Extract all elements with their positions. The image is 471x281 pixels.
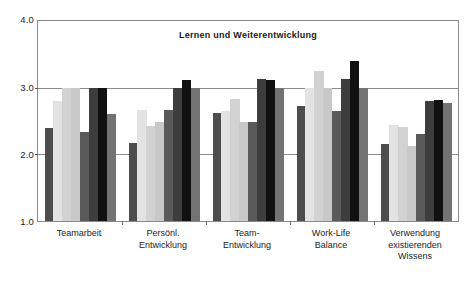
bar-group (45, 21, 116, 221)
x-tickmark (290, 221, 291, 225)
bar-chart: 4.0 3.0 2.0 1.0 Lernen und Weiterentwick… (0, 0, 471, 281)
x-axis-label-line: Entwicklung (121, 240, 205, 252)
bar (332, 111, 341, 221)
bar (305, 88, 314, 221)
bar (275, 88, 284, 221)
x-axis-label: Persönl.Entwicklung (121, 228, 205, 251)
bar (350, 61, 359, 221)
bar (182, 80, 191, 221)
x-axis-label-line: Wissens (373, 251, 457, 263)
bar-group (297, 21, 368, 221)
y-tick-label-2: 2.0 (4, 150, 34, 160)
bar (107, 114, 116, 221)
bar (164, 110, 173, 221)
bar (71, 88, 80, 221)
x-axis-label-line: Team- (205, 228, 289, 240)
bar-group (381, 21, 452, 221)
x-axis-label-line: Balance (289, 240, 373, 252)
x-axis-label-line: Work-Life (289, 228, 373, 240)
bar (53, 101, 62, 221)
x-axis-label-line: existierenden (373, 240, 457, 252)
x-axis-label-line: Entwicklung (205, 240, 289, 252)
x-axis-label: Work-LifeBalance (289, 228, 373, 251)
bar (266, 80, 275, 221)
y-tick-label-4: 4.0 (4, 15, 34, 25)
bar (98, 88, 107, 221)
y-tick-label-3: 3.0 (4, 83, 34, 93)
bars-layer (38, 21, 458, 221)
bar (416, 134, 425, 221)
bar (323, 88, 332, 221)
x-axis-label: VerwendungexistierendenWissens (373, 228, 457, 263)
bar (443, 103, 452, 221)
bar (248, 122, 257, 221)
x-axis: TeamarbeitPersönl.EntwicklungTeam-Entwic… (37, 228, 459, 280)
bar-group (213, 21, 284, 221)
y-axis: 4.0 3.0 2.0 1.0 (0, 0, 34, 281)
bar (389, 125, 398, 221)
bar (221, 111, 230, 221)
bar-group (129, 21, 200, 221)
bar (434, 100, 443, 221)
x-tickmark (122, 221, 123, 225)
bar (137, 110, 146, 221)
plot-area: Lernen und Weiterentwicklung (37, 20, 459, 222)
bar (407, 146, 416, 221)
bar (359, 88, 368, 221)
x-axis-label-line: Verwendung (373, 228, 457, 240)
bar (239, 122, 248, 221)
y-tick-label-1: 1.0 (4, 217, 34, 227)
x-axis-label: Teamarbeit (37, 228, 121, 240)
bar (191, 88, 200, 221)
x-axis-label-line: Persönl. (121, 228, 205, 240)
x-axis-label-line: Teamarbeit (37, 228, 121, 240)
x-axis-label: Team-Entwicklung (205, 228, 289, 251)
bar (80, 132, 89, 221)
x-tickmark (206, 221, 207, 225)
x-tickmark (374, 221, 375, 225)
bar (155, 122, 164, 221)
